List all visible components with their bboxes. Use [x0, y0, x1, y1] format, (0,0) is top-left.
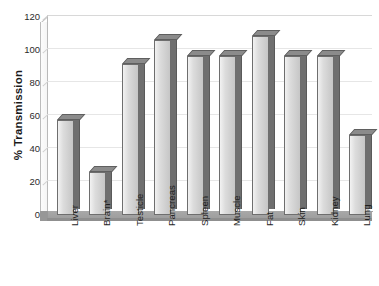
x-tick-label: Muscle	[231, 195, 242, 226]
bar-top-face	[154, 34, 182, 40]
bar-top-face	[187, 50, 215, 56]
bar-side-face	[74, 114, 80, 209]
bar-side-face	[334, 50, 340, 209]
y-axis-tick-labels: 120 100 80 60 40 20 0	[14, 0, 40, 286]
bar-front-face	[57, 120, 74, 215]
bar-testicle	[122, 58, 139, 215]
y-tick-label: 0	[14, 210, 40, 219]
bar-front-face	[187, 56, 204, 215]
bar-side-face	[269, 30, 275, 209]
bar-top-face	[219, 50, 247, 56]
bar-fat	[252, 30, 269, 215]
bar-muscle	[219, 50, 236, 215]
y-tick-label: 40	[14, 144, 40, 153]
bar-side-face	[171, 34, 177, 210]
bar-top-face	[252, 30, 280, 36]
y-tick-label: 60	[14, 111, 40, 120]
x-tick-label: Kidney	[329, 196, 340, 226]
bar-top-face	[89, 166, 117, 172]
bar-front-face	[122, 64, 139, 215]
bar-side-face	[236, 50, 242, 209]
x-tick-label: Pancreas	[166, 185, 177, 226]
bar-kidney	[317, 50, 334, 215]
bar-skin	[284, 50, 301, 215]
bar-side-face	[366, 129, 372, 209]
bar-lung	[349, 129, 366, 215]
x-tick-label: Brain*	[101, 200, 112, 226]
y-tick-label: 80	[14, 78, 40, 87]
bar-front-face	[317, 56, 334, 215]
bar-liver	[57, 114, 74, 215]
y-tick-label: 20	[14, 177, 40, 186]
x-tick-label: Fat	[264, 212, 275, 226]
x-tick-label: Spleen	[199, 196, 210, 226]
bar-top-face	[284, 50, 312, 56]
x-tick-label: Liver	[69, 205, 80, 226]
bar-spleen	[187, 50, 204, 215]
x-tick-label: Skin	[296, 207, 307, 226]
y-tick-label: 120	[14, 12, 40, 21]
bar-side-face	[301, 50, 307, 209]
x-tick-label: Lung	[361, 204, 372, 226]
bar-side-face	[139, 58, 145, 209]
bar-side-face	[204, 50, 210, 209]
bar-top-face	[349, 129, 377, 135]
x-tick-label: Testicle	[134, 194, 145, 226]
bar-front-face	[284, 56, 301, 215]
bar-front-face	[219, 56, 236, 215]
bar-series	[47, 15, 372, 218]
y-tick-label: 100	[14, 45, 40, 54]
bar-top-face	[122, 58, 150, 64]
bar-front-face	[349, 135, 366, 215]
x-axis-category-labels: LiverBrain*TesticlePancreasSpleenMuscleF…	[47, 224, 372, 286]
bar-top-face	[57, 114, 85, 120]
bar-chart: % Transmission 120 100 80 60 40 20 0 Liv…	[0, 0, 379, 286]
bar-front-face	[252, 36, 269, 215]
bar-top-face	[317, 50, 345, 56]
